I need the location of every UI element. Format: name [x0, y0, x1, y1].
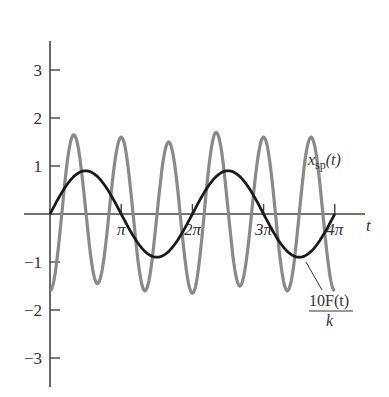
- y-tick-label: −3: [24, 349, 42, 368]
- series-force-leader: [306, 262, 322, 290]
- y-tick-label: −1: [24, 253, 42, 272]
- y-tick-label: −2: [24, 301, 42, 320]
- chart: 321−1−2−3 π2π3π4π t xsp(t) 10F(t) k: [0, 0, 389, 397]
- series-xsp-label: xsp(t): [307, 151, 341, 172]
- y-tick-label: 2: [34, 109, 43, 128]
- x-axis-label: t: [366, 216, 372, 235]
- series-force-label-denominator: k: [326, 312, 334, 329]
- y-tick-label: 1: [34, 157, 43, 176]
- y-tick-label: 3: [34, 61, 43, 80]
- series-force-label-numerator: 10F(t): [309, 292, 349, 310]
